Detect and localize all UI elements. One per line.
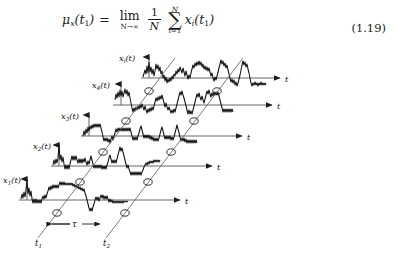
trace-xi-label-suffix: (t) (125, 53, 135, 63)
equals-sign: = (99, 12, 109, 27)
fraction-numerator: 1 (149, 7, 160, 19)
trace-xi-group: t xi(t) (119, 53, 289, 86)
page-root: μx(t1) = lim N→∞ 1 N N ∑ i=1 xi(t1) (1.1… (0, 0, 396, 267)
lhs-paren-close: ) (89, 12, 94, 27)
trace-xi-waveform (143, 60, 266, 86)
trace-x4-label: x4(t) (92, 80, 110, 91)
rhs-paren-close: ) (209, 12, 214, 27)
trace-x1-waveform (21, 180, 128, 211)
fraction-one-over-n: 1 N (148, 7, 162, 32)
tick-label-t2-sub: 2 (105, 243, 110, 249)
trace-x2-label-suffix: (t) (41, 141, 51, 151)
summation-operator: N ∑ i=1 (168, 6, 182, 34)
fraction-denominator: N (148, 20, 162, 32)
intersection-marker-x4-t2 (190, 118, 198, 124)
trace-x3-group: t x3(t) (61, 111, 251, 143)
slice-line-t2 (106, 58, 243, 238)
intersection-marker-xi-t1 (145, 88, 153, 94)
trace-x1-axis-label: t (185, 197, 189, 206)
trace-xi-axis-label: t (285, 75, 289, 84)
ensemble-figure-svg: t xi(t) t x4(t) t (0, 52, 396, 267)
equation-number: (1.19) (351, 21, 386, 35)
sum-lower-limit: i=1 (169, 27, 182, 34)
limit-operator: lim N→∞ (120, 10, 140, 31)
intersection-marker-x4-t1 (122, 118, 130, 124)
trace-x3-label-suffix: (t) (69, 111, 79, 121)
intersection-marker-x2-t1 (76, 179, 84, 185)
tick-label-t2: t2 (103, 238, 110, 249)
trace-x4-waveform (115, 89, 233, 114)
trace-x3-waveform (83, 124, 197, 143)
tau-measure: τ (52, 219, 100, 229)
trace-x2-label: x2(t) (33, 141, 51, 152)
trace-x2-group: t x2(t) (33, 141, 221, 175)
trace-x3-axis-label: t (247, 133, 251, 142)
ensemble-figure: t xi(t) t x4(t) t (0, 52, 396, 267)
intersection-marker-xi-t2 (213, 88, 221, 94)
trace-x2-axis-label: t (217, 163, 221, 172)
intersection-marker-x2-t2 (144, 179, 152, 185)
equation-rhs-term: xi(t1) (185, 12, 214, 28)
equation-block: μx(t1) = lim N→∞ 1 N N ∑ i=1 xi(t1) (1.1… (0, 6, 396, 52)
equation-lhs: μx(t1) (62, 12, 94, 28)
mu-symbol: μ (62, 12, 70, 27)
trace-x1-group: t x1(t) (3, 175, 189, 211)
trace-x4-axis-label: t (277, 102, 281, 111)
trace-x1-label-suffix: (t) (11, 175, 21, 185)
limit-subscript: N→∞ (121, 23, 139, 30)
tick-label-t1-sub: 1 (38, 243, 42, 249)
trace-x4-label-suffix: (t) (100, 80, 110, 90)
tick-label-t1: t1 (35, 238, 42, 249)
trace-xi-label: xi(t) (119, 53, 135, 64)
tau-label: τ (72, 219, 77, 229)
equation-expression: μx(t1) = lim N→∞ 1 N N ∑ i=1 xi(t1) (62, 6, 214, 34)
limit-word: lim (120, 10, 140, 23)
trace-x1-label: x1(t) (3, 175, 21, 186)
trace-x3-label: x3(t) (61, 111, 79, 122)
rhs-x-symbol: x (185, 12, 192, 27)
